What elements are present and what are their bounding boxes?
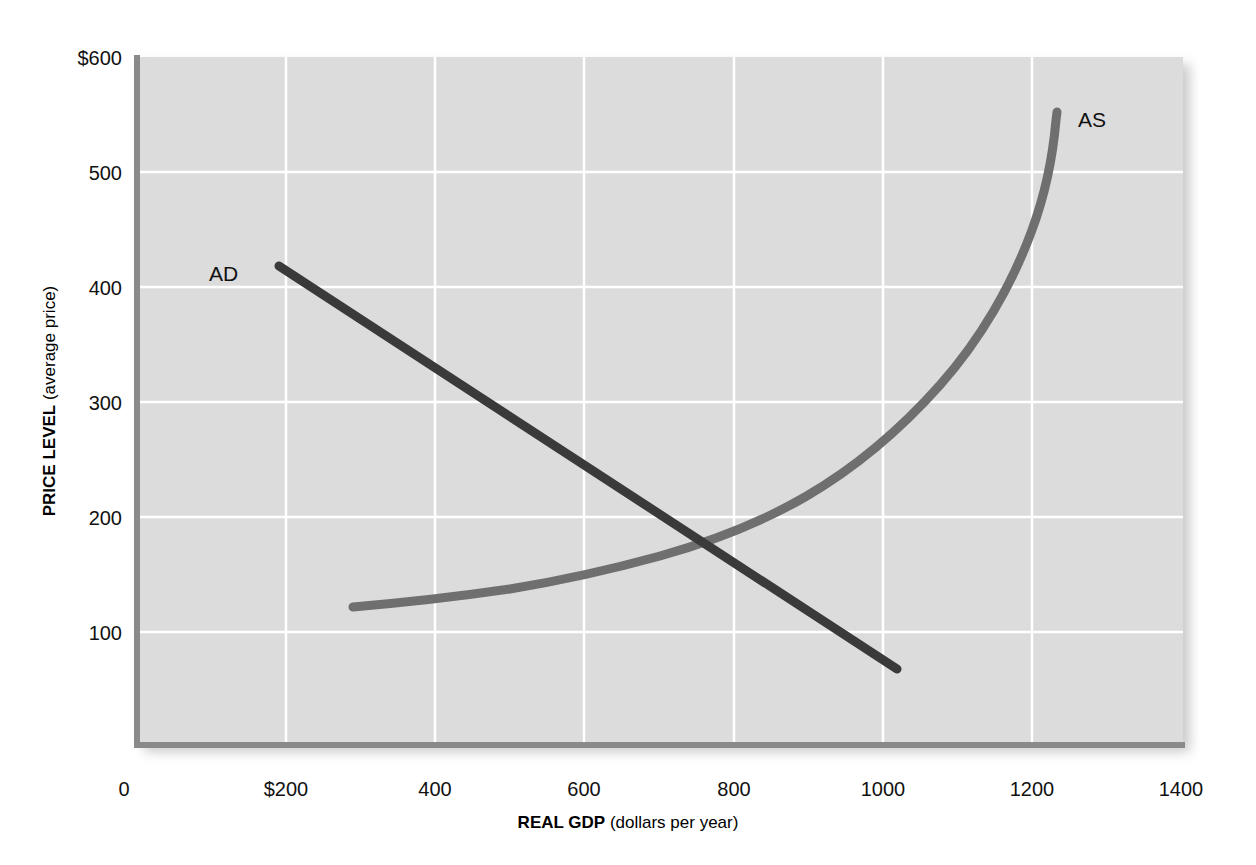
ad-curve-label: AD bbox=[209, 262, 238, 285]
x-tick-label-400: 400 bbox=[418, 778, 451, 800]
as-curve-label: AS bbox=[1078, 108, 1106, 131]
x-tick-label-0: 0 bbox=[118, 778, 129, 800]
y-tick-label-400: 400 bbox=[89, 277, 122, 299]
chart-figure: AS AD $600 500 400 300 200 100 0 $200 40… bbox=[0, 0, 1256, 865]
y-tick-label-300: 300 bbox=[89, 392, 122, 414]
aggregate-supply-demand-chart: AS AD $600 500 400 300 200 100 0 $200 40… bbox=[0, 0, 1256, 865]
y-tick-label-600: $600 bbox=[78, 47, 123, 69]
x-axis-title-plain: (dollars per year) bbox=[605, 813, 738, 832]
x-axis-title: REAL GDP (dollars per year) bbox=[518, 813, 739, 832]
x-axis-title-bold: REAL GDP bbox=[518, 813, 606, 832]
y-tick-label-100: 100 bbox=[89, 622, 122, 644]
x-tick-label-1400: 1400 bbox=[1159, 778, 1204, 800]
x-tick-label-200: $200 bbox=[264, 778, 309, 800]
x-tick-label-800: 800 bbox=[717, 778, 750, 800]
y-axis-title-plain: (average price) bbox=[40, 286, 59, 405]
x-tick-label-1000: 1000 bbox=[861, 778, 906, 800]
y-tick-label-500: 500 bbox=[89, 162, 122, 184]
x-tick-label-1200: 1200 bbox=[1010, 778, 1055, 800]
y-axis-title-bold: PRICE LEVEL bbox=[40, 405, 59, 516]
y-tick-label-200: 200 bbox=[89, 507, 122, 529]
x-tick-label-600: 600 bbox=[567, 778, 600, 800]
y-axis-title: PRICE LEVEL (average price) bbox=[40, 286, 59, 517]
